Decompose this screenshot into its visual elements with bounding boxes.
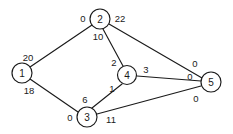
edge-3-4	[92, 84, 122, 108]
edge-label-3-4-head: 1	[109, 83, 114, 94]
node-label-3: 3	[84, 112, 90, 123]
edge-1-3	[30, 79, 78, 112]
node-3[interactable]: 3	[77, 107, 97, 127]
node-2[interactable]: 2	[90, 9, 110, 29]
edge-label-1-3-head: 0	[67, 112, 72, 123]
edge-label-3-4-tail: 6	[82, 94, 87, 105]
node-4[interactable]: 4	[118, 66, 137, 85]
edge-label-3-5-head: 0	[193, 93, 198, 104]
edges-layer	[30, 24, 202, 114]
edge-1-2	[30, 25, 92, 67]
node-1[interactable]: 1	[12, 63, 32, 83]
edge-label-2-5-tail: 22	[115, 13, 126, 24]
edge-label-4-5-head: 0	[187, 71, 192, 82]
node-label-1: 1	[19, 68, 25, 79]
node-label-2: 2	[97, 14, 103, 25]
edge-label-1-2-tail: 20	[23, 52, 34, 63]
graph-canvas: 2001801022206111030 12345	[0, 0, 233, 134]
node-label-4: 4	[124, 70, 130, 81]
node-label-5: 5	[208, 77, 214, 88]
edge-labels-layer: 2001801022206111030	[23, 13, 199, 125]
node-5[interactable]: 5	[201, 72, 221, 92]
edge-label-2-4-head: 2	[111, 57, 116, 68]
edge-label-3-5-tail: 11	[106, 114, 116, 125]
flow-network-figure: 2001801022206111030 12345	[0, 0, 233, 134]
edge-label-1-2-head: 0	[80, 13, 85, 24]
edge-label-4-5-tail: 3	[143, 64, 148, 75]
edge-label-1-3-tail: 18	[24, 85, 35, 96]
edge-label-2-4-tail: 10	[93, 31, 104, 42]
edge-label-2-5-head: 0	[192, 58, 197, 69]
